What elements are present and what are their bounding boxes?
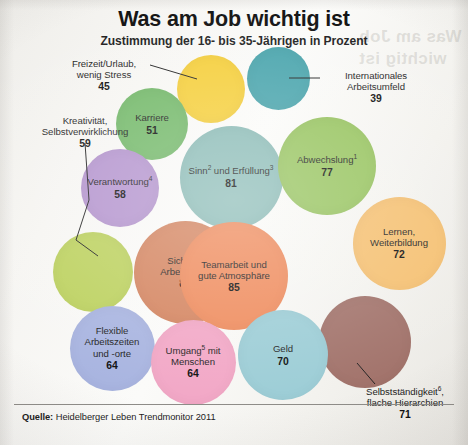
callout-kreativitaet-selbstverwirklichung: Kreativität, Selbstverwirklichung 59 — [6, 115, 164, 149]
bubble-kreativitaet-selbstverwirklichung[interactable] — [53, 232, 133, 312]
bubble-label: Weiterbildung — [366, 237, 432, 248]
bubble-value: 81 — [225, 178, 237, 189]
source-note: Quelle: Heidelberger Leben Trendmonitor … — [22, 412, 216, 422]
page-subtitle: Zustimmung der 16- bis 35-Jährigen in Pr… — [0, 34, 468, 49]
footnote-marker: 1 — [353, 153, 357, 160]
bubble-label: Geld — [269, 343, 297, 354]
bubble-internationales-arbeitsumfeld[interactable] — [247, 47, 310, 110]
callout-internationales-arbeitsumfeld: Internationales Arbeitsumfeld 39 — [324, 70, 428, 104]
source-label: Quelle: — [22, 412, 53, 422]
source-text: Heidelberger Leben Trendmonitor 2011 — [56, 412, 216, 422]
callout-value: 59 — [6, 138, 164, 149]
bubble-value: 72 — [393, 249, 405, 260]
bubble-label: Lernen, — [379, 226, 419, 237]
bubble-umgang-mit-menschen[interactable]: Umgang5 mit Menschen 64 — [151, 320, 236, 405]
page-title: Was am Job wichtig ist — [0, 7, 468, 31]
infographic-page: Was am Jobwichtig ist Was am Job wichtig… — [0, 0, 468, 445]
bubble-verantwortung[interactable]: Verantwortung4 58 — [81, 149, 159, 227]
bubble-value: 77 — [321, 167, 333, 178]
callout-line-2: wenig Stress — [77, 69, 131, 80]
bubble-label: Sinn2 und Erfüllung3 — [185, 165, 278, 176]
callout-line-1: Kreativität, — [63, 115, 108, 126]
callout-line-2: Selbstverwirklichung — [42, 126, 128, 137]
bubble-label: Abwechslung1 — [293, 154, 361, 165]
footer-divider — [14, 404, 454, 405]
callout-line-2: flache Hierarchien — [367, 397, 443, 408]
bubble-selbststaendigkeit-flache-hierarchien[interactable] — [319, 296, 411, 388]
callout-value: 71 — [344, 409, 466, 420]
bubble-value: 58 — [114, 189, 126, 200]
bubble-label: Menschen — [167, 356, 219, 367]
callout-value: 45 — [56, 81, 152, 92]
bubble-value: 64 — [187, 368, 199, 379]
callout-line-1: Internationales — [345, 70, 407, 81]
bubble-label: Umgang5 mit — [162, 345, 225, 356]
bubble-geld[interactable]: Geld 70 — [238, 310, 328, 400]
bubble-value: 70 — [277, 356, 289, 367]
callout-line-2: Arbeitsumfeld — [347, 81, 405, 92]
bubble-label: Flexible — [92, 325, 133, 336]
bubble-label: Teamarbeit und — [197, 259, 270, 270]
bubble-label: und -orte — [89, 348, 135, 359]
bubble-label: Verantwortung4 — [84, 176, 157, 187]
chart-header: Was am Job wichtig ist Zustimmung der 16… — [0, 0, 468, 49]
callout-line-1: Freizeit/Urlaub, — [72, 58, 136, 69]
bubble-abwechslung[interactable]: Abwechslung1 77 — [278, 117, 376, 215]
bubble-value: 64 — [106, 360, 118, 371]
bubble-sinn-und-erfuellung[interactable]: Sinn2 und Erfüllung3 81 — [180, 126, 283, 229]
callout-line-1: Selbstständigkeit6, — [366, 386, 444, 397]
footnote-marker: 4 — [149, 175, 153, 182]
callout-value: 39 — [324, 93, 428, 104]
bubble-value: 85 — [228, 282, 240, 293]
bubble-label: gute Atmosphäre — [194, 270, 274, 281]
callout-freizeit-urlaub: Freizeit/Urlaub, wenig Stress 45 — [56, 58, 152, 92]
footnote-marker: 3 — [270, 164, 274, 171]
bubble-label: Arbeitszeiten — [81, 336, 144, 347]
bubble-lernen-weiterbildung[interactable]: Lernen, Weiterbildung 72 — [353, 197, 446, 290]
bubble-flexible-arbeitszeiten[interactable]: Flexible Arbeitszeiten und -orte 64 — [70, 306, 155, 391]
bubble-freizeit-urlaub[interactable] — [177, 55, 245, 123]
